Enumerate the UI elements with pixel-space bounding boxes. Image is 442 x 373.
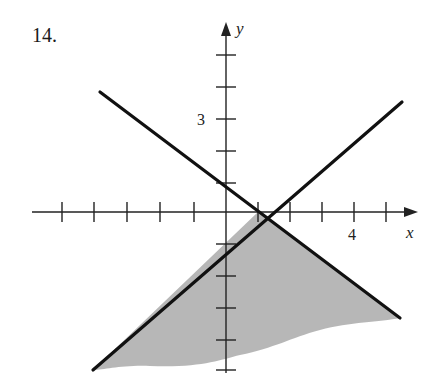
x-axis-label: x	[405, 223, 414, 242]
y-axis-label: y	[234, 19, 244, 38]
y-tick-label-3: 3	[197, 111, 205, 128]
x-axis	[32, 202, 418, 222]
problem-number: 14.	[32, 24, 57, 46]
graph-figure: 14.	[0, 0, 442, 373]
x-tick-label-4: 4	[348, 226, 356, 243]
